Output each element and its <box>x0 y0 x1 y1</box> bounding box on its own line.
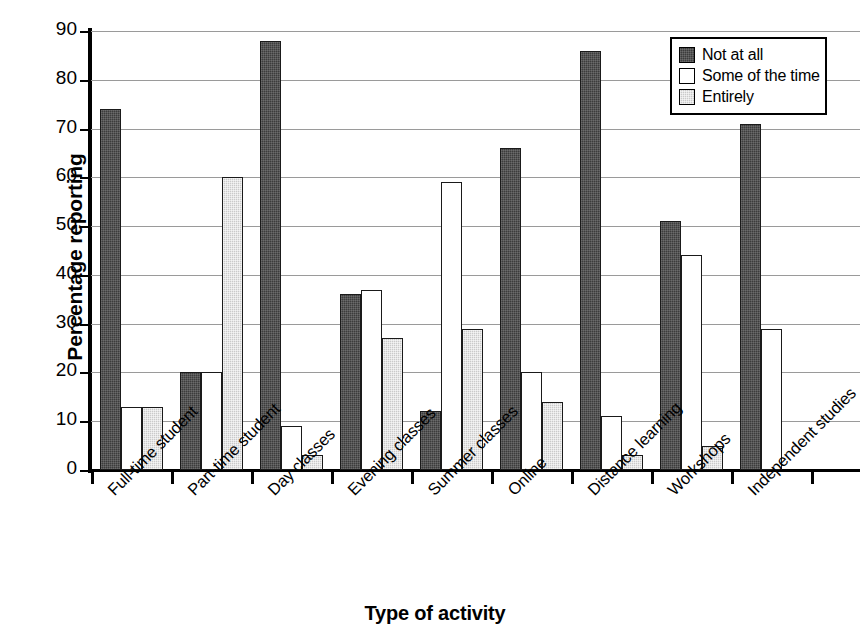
x-axis-title: Type of activity <box>300 602 570 625</box>
y-tick-label: 70 <box>37 116 77 138</box>
y-tick-label: 50 <box>37 213 77 235</box>
y-tick-label: 0 <box>37 457 77 479</box>
y-tick-mark <box>80 324 89 326</box>
x-tick-mark <box>411 471 414 484</box>
y-tick-label: 30 <box>37 311 77 333</box>
x-tick-mark <box>571 471 574 484</box>
x-tick-mark <box>731 471 734 484</box>
bar <box>361 290 382 470</box>
legend-swatch-icon <box>679 89 695 105</box>
y-tick-label: 80 <box>37 67 77 89</box>
y-tick-label: 20 <box>37 359 77 381</box>
x-tick-mark <box>91 471 94 484</box>
y-tick-mark <box>80 372 89 374</box>
y-tick-label: 90 <box>37 18 77 40</box>
y-tick-mark <box>80 177 89 179</box>
bar <box>580 51 601 470</box>
bar <box>761 329 782 470</box>
y-tick-mark <box>80 129 89 131</box>
x-tick-mark <box>651 471 654 484</box>
y-tick-mark <box>80 421 89 423</box>
bar <box>740 124 761 470</box>
bar-chart-figure: Percentage reporting Type of activity No… <box>0 0 866 640</box>
x-tick-mark <box>331 471 334 484</box>
x-tick-mark <box>171 471 174 484</box>
bar <box>100 109 121 470</box>
bar <box>441 182 462 470</box>
legend-item-label: Entirely <box>702 88 754 105</box>
x-tick-mark <box>811 471 814 484</box>
y-tick-mark <box>80 31 89 33</box>
bar <box>340 294 361 470</box>
x-tick-mark <box>251 471 254 484</box>
legend-item-label: Not at all <box>702 46 763 63</box>
bar <box>681 255 702 470</box>
gridline <box>91 31 860 32</box>
legend-item-label: Some of the time <box>702 67 820 84</box>
legend-swatch-icon <box>679 47 695 63</box>
legend-item[interactable]: Some of the time <box>679 65 818 86</box>
y-tick-mark <box>80 275 89 277</box>
y-tick-label: 40 <box>37 262 77 284</box>
legend-swatch-icon <box>679 68 695 84</box>
x-tick-mark <box>491 471 494 484</box>
bar <box>222 177 243 470</box>
y-tick-label: 10 <box>37 408 77 430</box>
chart-legend: Not at allSome of the timeEntirely <box>670 37 827 115</box>
legend-item[interactable]: Not at all <box>679 44 818 65</box>
y-tick-mark <box>80 80 89 82</box>
legend-item[interactable]: Entirely <box>679 86 818 107</box>
y-tick-label: 60 <box>37 164 77 186</box>
y-tick-mark <box>80 470 89 472</box>
y-tick-mark <box>80 226 89 228</box>
